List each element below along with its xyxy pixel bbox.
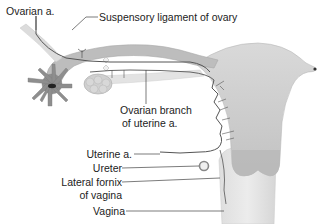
label-lateral-fornix-line2: of vagina <box>79 189 122 201</box>
label-ovarian-artery: Ovarian a. <box>6 5 54 17</box>
label-ureter: Ureter <box>93 162 122 174</box>
suspensory-ligament-band <box>20 24 62 62</box>
label-uterine-artery: Uterine a. <box>86 148 132 160</box>
label-vagina: Vagina <box>93 205 125 217</box>
leader-ureter <box>122 166 199 168</box>
ovary <box>84 74 112 94</box>
label-suspensory-ligament: Suspensory ligament of ovary <box>99 11 237 23</box>
label-ovarian-branch-line2: of uterine a. <box>122 117 177 129</box>
anatomy-diagram: Ovarian a. Suspensory ligament of ovary … <box>0 0 328 224</box>
leader-suspensory-ligament <box>72 17 98 30</box>
uterine-tube-opening <box>313 67 316 70</box>
leader-lateral-fornix <box>122 178 220 182</box>
mesovarium-node <box>103 57 109 71</box>
ureter-circle <box>200 162 209 171</box>
label-lateral-fornix-line1: Lateral fornix <box>61 176 122 188</box>
label-ovarian-branch-line1: Ovarian branch <box>120 104 192 116</box>
